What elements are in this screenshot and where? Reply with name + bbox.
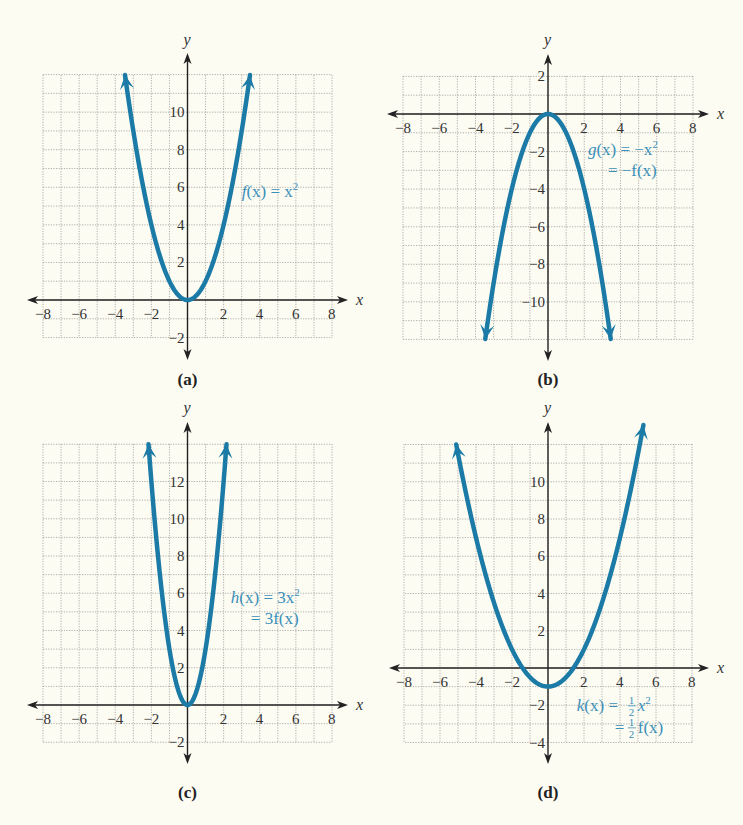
y-tick-label: 6 — [177, 179, 185, 195]
x-tick-label: 6 — [653, 120, 661, 136]
y-tick-label: −4 — [529, 735, 545, 751]
function-curve — [456, 425, 643, 687]
x-tick-label: −6 — [71, 711, 87, 727]
y-axis-label: y — [542, 31, 552, 49]
fraction-numerator: 1 — [629, 716, 635, 728]
x-tick-label: 4 — [256, 711, 264, 727]
x-tick-label: 8 — [328, 306, 336, 322]
equation-label: g(x) = −x2 — [588, 138, 658, 159]
x-tick-label: 8 — [689, 120, 697, 136]
y-tick-label: −2 — [169, 330, 185, 346]
x-tick-label: −8 — [35, 711, 51, 727]
x-tick-label: 6 — [292, 306, 300, 322]
y-axis-label: y — [182, 399, 192, 417]
axes — [387, 54, 709, 361]
y-tick-label: 6 — [177, 585, 185, 601]
x-tick-label: 6 — [652, 674, 660, 690]
x-axis-label: x — [355, 696, 363, 713]
x-tick-label: −4 — [468, 120, 484, 136]
x-tick-label: −8 — [395, 120, 411, 136]
panel-label: (c) — [178, 783, 197, 802]
panel-label: (b) — [538, 370, 559, 389]
x-tick-label: −2 — [504, 120, 520, 136]
x-tick-label: −8 — [396, 674, 412, 690]
x-tick-label: 2 — [580, 120, 588, 136]
y-tick-label: 10 — [530, 474, 545, 490]
y-tick-label: 4 — [177, 623, 185, 639]
y-tick-label: 8 — [177, 548, 185, 564]
y-tick-label: −2 — [529, 144, 545, 160]
x-tick-label: −4 — [107, 306, 123, 322]
x-axis-label: x — [716, 659, 724, 676]
y-tick-label: 2 — [177, 254, 185, 270]
x-tick-label: 8 — [328, 711, 336, 727]
y-tick-label: −4 — [529, 181, 545, 197]
y-tick-label: −6 — [529, 219, 545, 235]
x-tick-label: −8 — [35, 306, 51, 322]
x-axis-label: x — [716, 105, 724, 122]
y-tick-label: 4 — [177, 217, 185, 233]
x-tick-label: 8 — [688, 674, 696, 690]
figure-canvas: xy−8−6−4−22468246810−2(a)f(x) = x2 xy−8−… — [0, 0, 743, 825]
x-tick-label: 4 — [256, 306, 264, 322]
fraction-denominator: 2 — [629, 728, 635, 740]
equation-label-line2: = — [615, 718, 625, 737]
equation-label-line2-tail: f(x) — [638, 718, 663, 737]
y-axis-label: y — [182, 31, 192, 49]
y-tick-label: 2 — [177, 660, 185, 676]
equation-label-tail: x2 — [637, 694, 651, 715]
equation-label: h(x) = 3x2 — [231, 586, 300, 607]
y-axis-label: y — [542, 399, 552, 417]
x-tick-label: 4 — [616, 674, 624, 690]
y-tick-label: −10 — [522, 294, 545, 310]
x-tick-label: −4 — [107, 711, 123, 727]
panel-label: (d) — [538, 783, 559, 802]
x-tick-label: −4 — [468, 674, 484, 690]
x-tick-label: −2 — [143, 711, 159, 727]
axes — [389, 422, 709, 764]
x-tick-label: 2 — [220, 711, 228, 727]
y-tick-label: −2 — [169, 734, 185, 750]
y-tick-label: −8 — [529, 256, 545, 272]
fraction-numerator: 1 — [629, 694, 635, 706]
equation-label: f(x) = x2 — [242, 180, 299, 201]
panel-a-graph: xy−8−6−4−22468246810−2(a)f(x) = x2 — [27, 31, 363, 389]
y-tick-label: 8 — [177, 142, 185, 158]
y-tick-label: 2 — [538, 623, 546, 639]
x-tick-label: 4 — [617, 120, 625, 136]
equation-label-line2: = 3f(x) — [251, 609, 299, 628]
x-tick-label: −6 — [71, 306, 87, 322]
equation-label: k(x) = — [577, 696, 618, 715]
y-tick-label: 8 — [538, 511, 546, 527]
x-tick-label: −6 — [432, 674, 448, 690]
y-tick-label: −2 — [529, 697, 545, 713]
x-tick-label: 2 — [220, 306, 228, 322]
y-tick-label: 10 — [170, 104, 185, 120]
x-tick-label: −2 — [143, 306, 159, 322]
x-tick-label: −2 — [504, 674, 520, 690]
y-tick-label: 10 — [170, 511, 185, 527]
x-tick-label: −6 — [431, 120, 447, 136]
panel-b-graph: xy−8−6−4−224682−2−4−6−8−10(b)g(x) = −x2=… — [387, 31, 724, 389]
y-tick-label: 2 — [538, 68, 546, 84]
y-tick-label: 6 — [538, 548, 546, 564]
panel-c-graph: xy−8−6−4−2246824681012−2(c)h(x) = 3x2= 3… — [27, 399, 363, 802]
y-tick-label: 4 — [538, 586, 546, 602]
x-tick-label: 2 — [580, 674, 588, 690]
x-axis-label: x — [355, 291, 363, 308]
panel-d-graph: xy−8−6−4−22468246810−2−4(d)k(x) = 12x2= … — [389, 399, 724, 802]
x-tick-label: 6 — [292, 711, 300, 727]
panel-label: (a) — [178, 370, 198, 389]
equation-label-line2: = −f(x) — [608, 161, 657, 180]
y-tick-label: 12 — [170, 474, 185, 490]
